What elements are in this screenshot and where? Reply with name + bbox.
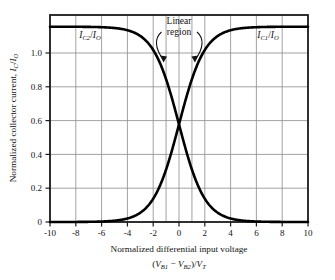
x-tick-label: -6 [98,228,106,238]
y-axis-title-sub2: O [12,53,19,58]
y-axis-title-prefix: Normalized collector current, [8,72,18,183]
x-tick-label: 10 [304,228,314,238]
x-axis-formula-v1sub: B1 [161,263,168,270]
x-tick-label: 0 [177,228,182,238]
curve-label-ic2-sub2: O [96,34,101,41]
curve-label-ic1-sub2: O [274,34,279,41]
curve-label-ic1-sub: C1 [260,34,268,41]
x-axis-title-line1: Normalized differential input voltage [111,244,248,254]
x-axis-formula-minus: − [168,259,178,269]
x-tick-label: 2 [203,228,208,238]
y-axis-title: Normalized collector current, IC/IO [8,53,19,182]
x-tick-label: -2 [149,228,157,238]
y-tick-label: 0.6 [31,116,43,126]
x-tick-label: -4 [124,228,132,238]
linear-region-label-line1: Linear [167,16,193,26]
y-tick-label: 0 [38,217,43,227]
x-axis-title-line2: (VB1 − VB2)/VT [152,259,207,270]
figure-container: -10 -8 -6 -4 -2 0 2 4 6 8 10 1.0 0.8 0.6… [0,0,335,280]
y-tick-label: 0.8 [31,82,43,92]
x-tick-label: -8 [72,228,80,238]
y-tick-label: 0.2 [31,183,42,193]
x-tick-label: -10 [44,228,56,238]
x-tick-label: 8 [280,228,285,238]
chart-svg: -10 -8 -6 -4 -2 0 2 4 6 8 10 1.0 0.8 0.6… [0,0,335,280]
x-tick-label: 4 [228,228,233,238]
x-tick-label: 6 [254,228,259,238]
linear-region-label-line2: region [167,27,192,37]
y-tick-label: 1.0 [31,48,43,58]
y-tick-label: 0.4 [31,150,43,160]
